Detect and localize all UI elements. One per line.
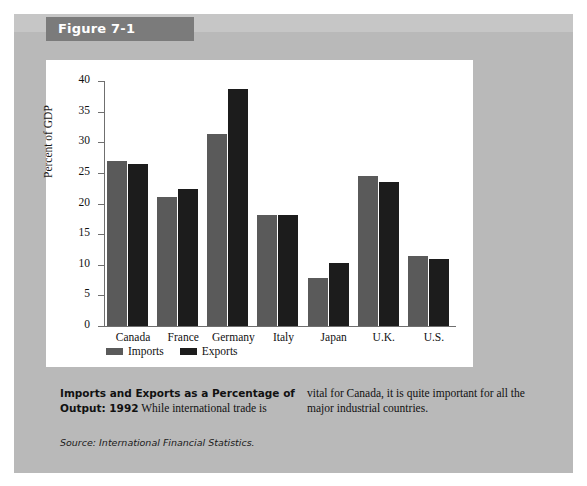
bar-exports [228,89,248,326]
bar-group: Italy [255,81,305,326]
y-tick-mark [98,234,105,235]
y-tick-label: 0 [56,318,90,330]
y-tick-label: 10 [56,257,90,269]
y-tick-mark [98,112,105,113]
bar-group: U.K. [356,81,406,326]
bar-series-container: CanadaFranceGermanyItalyJapanU.K.U.S. [105,81,456,326]
caption-column-left: Imports and Exports as a Percentage of O… [60,386,298,416]
figure-tag-label: Figure 7-1 [58,21,135,36]
bar-exports [128,164,148,326]
caption-column-right: vital for Canada, it is quite important … [307,386,545,416]
bar-imports [408,256,428,326]
chart-legend: ImportsExports [106,344,254,357]
y-tick-label: 5 [56,287,90,299]
figure-tag: Figure 7-1 [46,17,194,41]
y-axis-title: Percent of GDP [42,105,54,178]
y-tick-mark [98,326,105,327]
y-tick-mark [98,265,105,266]
y-tick-mark [98,142,105,143]
bar-imports [157,197,177,326]
bar-imports [358,176,378,326]
caption-text-left: While international trade is [141,402,267,414]
caption-text-right: vital for Canada, it is quite important … [307,387,525,414]
bar-exports [178,189,198,326]
legend-item: Exports [180,344,238,357]
bar-group: Japan [306,81,356,326]
legend-label: Exports [202,345,238,357]
bar-imports [308,278,328,326]
legend-swatch-exports [180,348,197,355]
bar-imports [207,134,227,326]
bar-group: Germany [205,81,255,326]
chart-plot-area: Percent of GDP 0510152025303540 CanadaFr… [46,60,473,367]
y-tick-label: 20 [56,196,90,208]
legend-label: Imports [128,345,164,357]
y-tick-label: 40 [56,73,90,85]
y-tick-mark [98,295,105,296]
bar-imports [107,161,127,326]
bar-group: U.S. [406,81,456,326]
y-tick-mark [98,204,105,205]
y-tick-label: 15 [56,226,90,238]
bar-exports [278,215,298,326]
bar-exports [329,263,349,326]
bar-imports [257,215,277,326]
y-tick-mark [98,81,105,82]
bar-exports [429,259,449,326]
y-tick-label: 30 [56,134,90,146]
figure-root: Figure 7-1 Percent of GDP 05101520253035… [0,0,587,486]
legend-item: Imports [106,344,164,357]
y-tick-mark [98,173,105,174]
x-tick-label: U.S. [392,331,476,343]
bar-group: France [155,81,205,326]
y-tick-label: 35 [56,104,90,116]
x-axis-line [104,326,456,327]
bar-exports [379,182,399,326]
y-tick-label: 25 [56,165,90,177]
figure-source: Source: International Financial Statisti… [60,437,255,448]
bar-group: Canada [105,81,155,326]
legend-swatch-imports [106,348,123,355]
